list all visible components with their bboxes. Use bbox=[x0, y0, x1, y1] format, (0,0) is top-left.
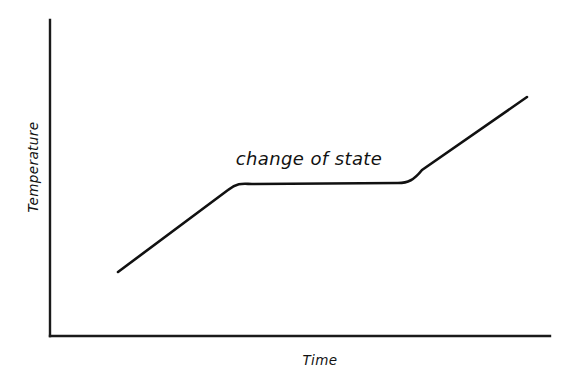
heating-curve-figure: Temperature Time change of state bbox=[0, 0, 574, 388]
y-axis-title-group: Temperature bbox=[25, 122, 41, 213]
x-axis-title: Time bbox=[302, 352, 337, 368]
change-of-state-annotation: change of state bbox=[236, 148, 383, 169]
y-axis-title: Temperature bbox=[25, 122, 41, 213]
heating-curve-path bbox=[118, 97, 527, 272]
chart-canvas: Temperature Time change of state bbox=[0, 0, 574, 388]
